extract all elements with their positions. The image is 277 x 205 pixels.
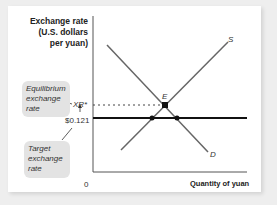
target-callout-pointer: [62, 128, 72, 140]
supply-curve: [121, 42, 228, 150]
x-axis-label: Quantity of yuan: [190, 179, 249, 188]
supply-label: S: [228, 35, 233, 44]
supply-intersection-point: [150, 116, 155, 121]
origin-label: 0: [84, 180, 88, 189]
demand-curve: [107, 45, 208, 152]
equilibrium-callout: Equilibrium exchange rate: [22, 81, 70, 117]
target-rate-tick: $0.121: [65, 116, 89, 125]
y-axis-label: Exchange rate (U.S. dollars per yuan): [26, 16, 88, 49]
equilibrium-rate-tick: XR*: [73, 100, 87, 109]
target-callout: Target exchange rate: [24, 141, 70, 178]
demand-label: D: [210, 150, 216, 159]
demand-intersection-point: [175, 116, 180, 121]
equilibrium-point: [162, 102, 168, 108]
equilibrium-label: E: [162, 92, 167, 101]
